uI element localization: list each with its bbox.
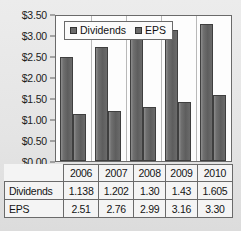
table-corner-cell	[5, 165, 64, 182]
chart-legend: Dividends EPS	[64, 21, 173, 40]
bar-eps-2007	[95, 47, 108, 161]
legend-label-dividends: Dividends	[80, 24, 126, 36]
y-axis-tick-label: $3.50	[22, 9, 47, 21]
legend-item-eps: EPS	[135, 24, 166, 36]
y-axis-tick-label: $1.00	[22, 114, 47, 126]
table-header-year: 2006	[64, 165, 99, 182]
legend-swatch-icon	[135, 27, 142, 34]
y-axis-tick-mark	[50, 162, 55, 163]
legend-item-dividends: Dividends	[70, 24, 126, 36]
table-cell: 1.30	[134, 182, 166, 200]
table-row: Dividends1.1381.2021.301.431.605	[5, 182, 233, 200]
legend-label-eps: EPS	[145, 24, 166, 36]
y-axis-tick-mark	[50, 99, 55, 100]
data-table: 20062007200820092010Dividends1.1381.2021…	[4, 164, 233, 218]
y-axis-tick-mark	[50, 15, 55, 16]
table-cell: 2.51	[64, 200, 99, 218]
table-cell: 1.138	[64, 182, 99, 200]
y-axis-tick-mark	[50, 78, 55, 79]
table-header-year: 2008	[134, 165, 166, 182]
bar-eps-2006	[60, 57, 73, 161]
table-header-year: 2007	[99, 165, 134, 182]
table-cell: 1.605	[197, 182, 232, 200]
bar-dividends-2006	[73, 114, 86, 161]
table-cell: 1.202	[99, 182, 134, 200]
bar-eps-2010	[200, 24, 213, 161]
y-axis-tick-label: $0.50	[22, 135, 47, 147]
y-axis-tick-label: $2.50	[22, 51, 47, 63]
table-row: EPS2.512.762.993.163.30	[5, 200, 233, 218]
table-row-label: Dividends	[5, 182, 64, 200]
table-cell: 2.76	[99, 200, 134, 218]
table-header-year: 2010	[197, 165, 232, 182]
data-table-body: 20062007200820092010Dividends1.1381.2021…	[5, 165, 233, 218]
table-cell: 3.16	[166, 200, 198, 218]
bar-dividends-2008	[143, 107, 156, 161]
y-axis-tick-label: $2.00	[22, 72, 47, 84]
table-cell: 2.99	[134, 200, 166, 218]
y-axis-tick-label: $1.50	[22, 93, 47, 105]
table-row-years: 20062007200820092010	[5, 165, 233, 182]
table-cell: 3.30	[197, 200, 232, 218]
bar-dividends-2010	[213, 95, 226, 161]
plot-area: Dividends EPS	[55, 15, 232, 162]
y-axis: $0.00$0.50$1.00$1.50$2.00$2.50$3.00$3.50	[0, 6, 50, 170]
table-cell: 1.43	[166, 182, 198, 200]
table-header-year: 2009	[166, 165, 198, 182]
y-axis-tick-mark	[50, 120, 55, 121]
y-axis-tick-mark	[50, 141, 55, 142]
bar-dividends-2009	[178, 102, 191, 161]
table-row-label: EPS	[5, 200, 64, 218]
chart-screenshot: $0.00$0.50$1.00$1.50$2.00$2.50$3.00$3.50…	[0, 0, 241, 231]
y-axis-tick-label: $3.00	[22, 30, 47, 42]
bar-group	[196, 16, 231, 161]
bar-chart: $0.00$0.50$1.00$1.50$2.00$2.50$3.00$3.50…	[0, 6, 241, 176]
bar-eps-2008	[130, 37, 143, 161]
legend-swatch-icon	[70, 27, 77, 34]
bar-dividends-2007	[108, 111, 121, 161]
bar-eps-2009	[165, 30, 178, 161]
y-axis-tick-mark	[50, 36, 55, 37]
y-axis-tick-mark	[50, 57, 55, 58]
